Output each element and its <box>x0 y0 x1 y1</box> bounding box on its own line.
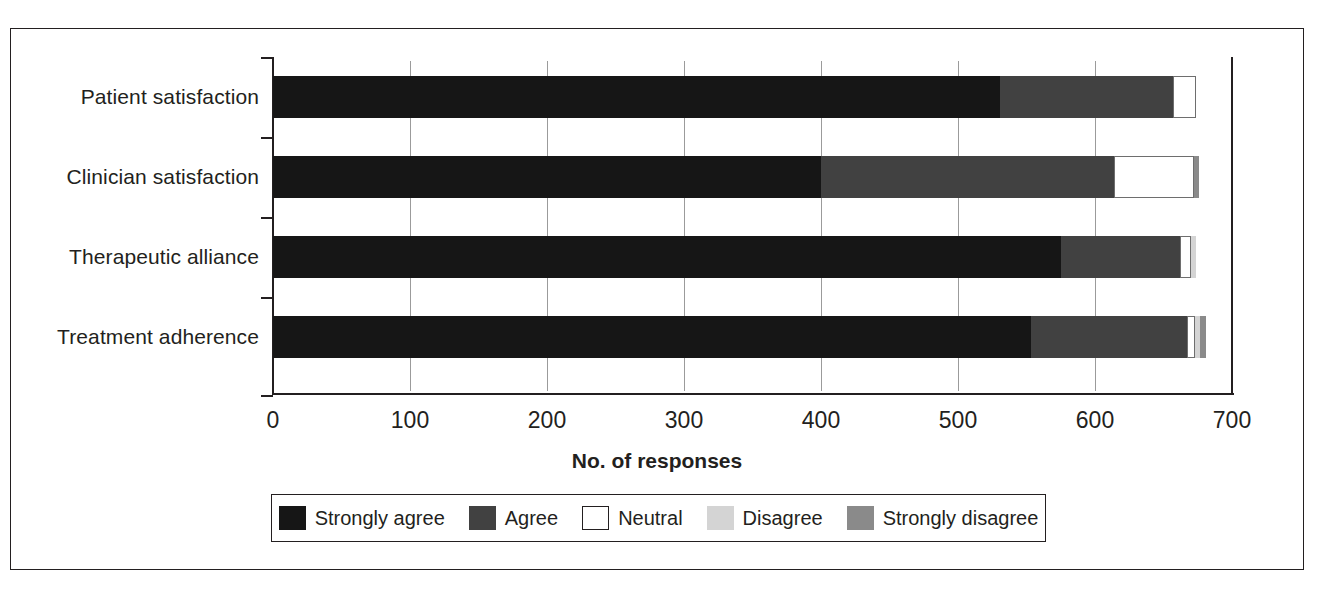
bar-segment[interactable] <box>273 236 1061 278</box>
bar-segment[interactable] <box>1000 76 1173 118</box>
bar-segment[interactable] <box>1180 236 1191 278</box>
legend-swatch-icon <box>469 506 496 530</box>
bar-segment[interactable] <box>1114 156 1193 198</box>
legend-item[interactable]: Neutral <box>582 506 682 530</box>
x-tick-label-600: 600 <box>1076 407 1114 434</box>
category-label-1: Clinician satisfaction <box>67 165 259 189</box>
bar-segment[interactable] <box>1031 316 1187 358</box>
x-tick-label-300: 300 <box>665 407 703 434</box>
bar-segment[interactable] <box>1191 236 1196 278</box>
bar-segment[interactable] <box>1187 316 1195 358</box>
bar-segment[interactable] <box>1200 316 1205 358</box>
legend-swatch-icon <box>707 506 734 530</box>
chart-legend: Strongly agreeAgreeNeutralDisagreeStrong… <box>271 494 1046 542</box>
legend-swatch-icon <box>279 506 306 530</box>
x-tick-label-200: 200 <box>528 407 566 434</box>
y-axis-tick <box>261 297 273 299</box>
y-axis-tick <box>261 57 273 59</box>
y-axis-tick <box>261 217 273 219</box>
legend-item[interactable]: Disagree <box>707 506 823 530</box>
bar-segment[interactable] <box>1061 236 1180 278</box>
bar-segment[interactable] <box>273 316 1031 358</box>
bar-segment[interactable] <box>273 76 1000 118</box>
legend-item[interactable]: Strongly disagree <box>847 506 1039 530</box>
x-tick-label-100: 100 <box>391 407 429 434</box>
legend-item[interactable]: Agree <box>469 506 558 530</box>
category-label-3: Treatment adherence <box>57 325 259 349</box>
category-label-2: Therapeutic alliance <box>69 245 259 269</box>
legend-label: Disagree <box>743 507 823 530</box>
x-tick-label-0: 0 <box>267 407 280 434</box>
legend-label: Strongly disagree <box>883 507 1039 530</box>
y-axis-tick <box>261 395 273 397</box>
bar-segment[interactable] <box>1173 76 1196 118</box>
legend-label: Agree <box>505 507 558 530</box>
x-tick-label-700: 700 <box>1213 407 1251 434</box>
x-axis-title: No. of responses <box>11 449 1303 473</box>
chart-figure-frame: Patient satisfactionClinician satisfacti… <box>10 28 1304 570</box>
bar-segment[interactable] <box>821 156 1114 198</box>
legend-item[interactable]: Strongly agree <box>279 506 445 530</box>
legend-swatch-icon <box>847 506 874 530</box>
y-axis-tick <box>261 137 273 139</box>
bar-segment[interactable] <box>273 156 821 198</box>
bar-segment[interactable] <box>1194 156 1199 198</box>
x-tick-label-400: 400 <box>802 407 840 434</box>
legend-label: Neutral <box>618 507 682 530</box>
category-label-0: Patient satisfaction <box>81 85 259 109</box>
right-axis-line <box>1231 57 1233 395</box>
legend-label: Strongly agree <box>315 507 445 530</box>
x-tick-label-500: 500 <box>939 407 977 434</box>
x-axis-line <box>272 393 1234 395</box>
legend-swatch-icon <box>582 506 609 530</box>
